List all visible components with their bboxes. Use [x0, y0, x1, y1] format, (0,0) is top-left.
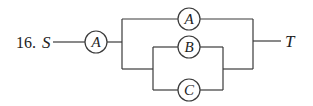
source-terminal-s: S: [42, 33, 51, 52]
problem-number: 16.: [16, 34, 36, 51]
component-c: C: [178, 79, 200, 101]
component-label: C: [184, 82, 195, 98]
component-b: B: [178, 36, 200, 58]
circuit-diagram: 16. S T A A B C: [0, 0, 313, 106]
component-series-a: A: [85, 31, 107, 53]
component-parallel-a: A: [178, 8, 200, 30]
component-label: B: [184, 39, 193, 55]
component-label: A: [90, 34, 101, 50]
target-terminal-t: T: [285, 32, 296, 51]
component-label: A: [183, 11, 194, 27]
